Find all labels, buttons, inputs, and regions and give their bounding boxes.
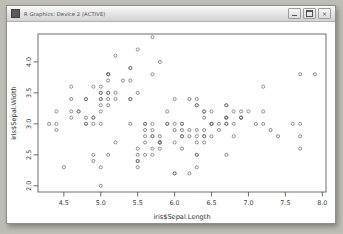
- data-point: [62, 166, 65, 169]
- window-title: R Graphics: Device 2 (ACTIVE): [24, 11, 288, 17]
- data-point: [55, 122, 58, 125]
- data-point: [107, 73, 110, 76]
- data-point: [144, 141, 147, 144]
- data-point: [92, 116, 95, 119]
- data-point: [195, 141, 198, 144]
- data-point: [203, 128, 206, 131]
- data-point: [173, 98, 176, 101]
- data-point: [291, 122, 294, 125]
- data-point: [240, 116, 243, 119]
- data-point: [151, 122, 154, 125]
- data-point: [48, 122, 51, 125]
- data-point: [210, 135, 213, 138]
- data-point: [188, 98, 191, 101]
- maximize-button[interactable]: [303, 8, 316, 19]
- data-point: [247, 110, 250, 113]
- data-point: [195, 166, 198, 169]
- data-point: [84, 116, 87, 119]
- data-point: [203, 141, 206, 144]
- data-point: [136, 166, 139, 169]
- data-point: [99, 166, 102, 169]
- data-point: [166, 110, 169, 113]
- data-point: [129, 98, 132, 101]
- data-point: [121, 79, 124, 82]
- data-point: [173, 172, 176, 175]
- data-point: [144, 135, 147, 138]
- data-point: [99, 184, 102, 187]
- desktop-background: R Graphics: Device 2 (ACTIVE) × 4.55.05.…: [0, 0, 343, 234]
- data-point: [210, 122, 213, 125]
- minimize-button[interactable]: [288, 8, 301, 19]
- data-point: [99, 110, 102, 113]
- data-point: [151, 36, 154, 39]
- data-point: [203, 110, 206, 113]
- data-point: [136, 147, 139, 150]
- data-point: [144, 153, 147, 156]
- x-tick-label: 5.0: [96, 199, 106, 207]
- plot-box: [38, 34, 326, 192]
- x-axis-label: iris$Sepal.Length: [153, 213, 210, 221]
- data-point: [114, 91, 117, 94]
- data-point: [188, 172, 191, 175]
- data-point: [136, 153, 139, 156]
- data-point: [99, 104, 102, 107]
- data-point: [114, 141, 117, 144]
- data-point: [262, 85, 265, 88]
- x-tick-label: 8.0: [317, 199, 327, 207]
- y-tick-label: 4.0: [25, 57, 33, 67]
- data-point: [129, 122, 132, 125]
- data-point: [158, 60, 161, 63]
- data-point: [99, 85, 102, 88]
- minimize-icon: [292, 15, 297, 16]
- data-point: [114, 98, 117, 101]
- data-point: [107, 79, 110, 82]
- data-point: [173, 122, 176, 125]
- data-point: [240, 110, 243, 113]
- data-point: [144, 128, 147, 131]
- data-point: [299, 122, 302, 125]
- data-point: [151, 153, 154, 156]
- data-point: [70, 98, 73, 101]
- data-point: [217, 128, 220, 131]
- data-point: [217, 122, 220, 125]
- window-titlebar[interactable]: R Graphics: Device 2 (ACTIVE) ×: [7, 6, 335, 22]
- y-tick-label: 2.5: [25, 150, 33, 160]
- data-point: [136, 91, 139, 94]
- data-point: [195, 104, 198, 107]
- data-point: [107, 98, 110, 101]
- data-point: [262, 122, 265, 125]
- data-point: [180, 122, 183, 125]
- data-point: [276, 135, 279, 138]
- x-tick-label: 7.0: [243, 199, 253, 207]
- data-point: [55, 128, 58, 131]
- data-point: [180, 128, 183, 131]
- close-icon: ×: [322, 11, 327, 17]
- data-point: [92, 153, 95, 156]
- r-graphics-window: R Graphics: Device 2 (ACTIVE) × 4.55.05.…: [6, 5, 336, 224]
- data-point: [129, 79, 132, 82]
- data-point: [203, 116, 206, 119]
- data-point: [158, 135, 161, 138]
- data-point: [151, 128, 154, 131]
- data-point: [84, 98, 87, 101]
- data-point: [136, 48, 139, 51]
- data-points: [48, 36, 317, 188]
- data-point: [158, 141, 161, 144]
- data-point: [55, 110, 58, 113]
- close-button[interactable]: ×: [318, 8, 331, 19]
- data-point: [70, 116, 73, 119]
- data-point: [136, 159, 139, 162]
- data-point: [210, 110, 213, 113]
- data-point: [225, 122, 228, 125]
- data-point: [107, 104, 110, 107]
- data-point: [92, 85, 95, 88]
- x-tick-label: 6.0: [170, 199, 180, 207]
- data-point: [232, 135, 235, 138]
- data-point: [180, 147, 183, 150]
- data-point: [107, 91, 110, 94]
- y-tick-label: 2.0: [25, 181, 33, 191]
- data-point: [269, 128, 272, 131]
- x-tick-label: 7.5: [280, 199, 290, 207]
- data-point: [166, 122, 169, 125]
- x-tick-label: 5.5: [133, 199, 143, 207]
